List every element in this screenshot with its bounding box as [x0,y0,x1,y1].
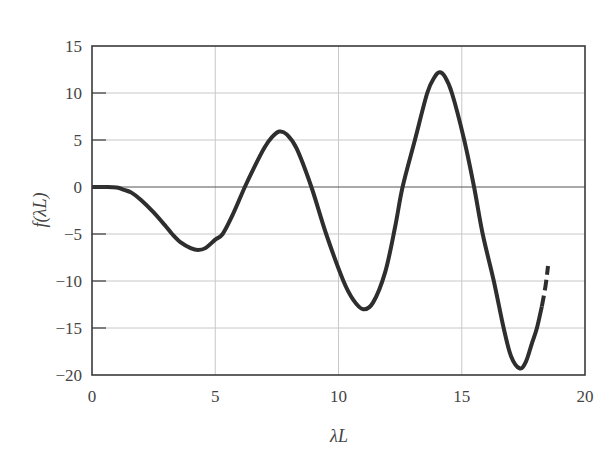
y-tick-label: 5 [74,131,83,150]
y-tick-label: 15 [65,37,82,56]
x-tick-label: 0 [88,387,97,406]
grid-lines [92,46,585,375]
y-tick-label: 0 [74,178,83,197]
chart: 05101520 151050−5−10−15−20 λL f(λL) [0,0,613,460]
x-tick-label: 10 [330,387,347,406]
x-tick-label: 20 [577,387,594,406]
y-tick-label: −20 [55,366,82,385]
x-axis-ticks: 05101520 [88,387,594,406]
y-axis-ticks: 151050−5−10−15−20 [55,37,106,385]
x-tick-label: 5 [211,387,220,406]
y-tick-label: −5 [64,225,82,244]
y-tick-label: −15 [55,319,82,338]
y-tick-label: −10 [55,272,82,291]
curve-solid-segment [92,72,542,368]
data-curve [92,72,548,368]
y-axis-label: f(λL) [30,193,51,228]
x-axis-label: λL [329,426,348,446]
x-tick-label: 15 [453,387,470,406]
curve-dashed-segment [542,266,548,306]
y-tick-label: 10 [65,84,82,103]
